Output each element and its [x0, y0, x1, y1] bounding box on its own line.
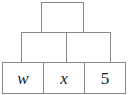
pyramid-tier-top — [41, 2, 84, 33]
number-pyramid-figure: w x 5 — [0, 0, 128, 95]
pyramid-cell-5-label: 5 — [101, 70, 110, 87]
pyramid-tier-middle — [21, 32, 111, 63]
pyramid-cell-w[interactable]: w — [3, 63, 43, 93]
pyramid-cell-5[interactable]: 5 — [84, 63, 125, 93]
pyramid-cell-apex[interactable] — [42, 3, 83, 32]
pyramid-cell-w-label: w — [17, 70, 28, 87]
pyramid-cell-middle-right[interactable] — [66, 33, 110, 62]
pyramid-cell-middle-left[interactable] — [22, 33, 66, 62]
pyramid-cell-x[interactable]: x — [43, 63, 84, 93]
pyramid-cell-x-label: x — [60, 70, 68, 87]
pyramid-tier-bottom: w x 5 — [2, 62, 126, 94]
